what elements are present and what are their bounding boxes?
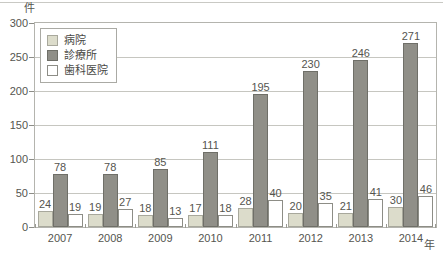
legend-label-clinic: 診療所 <box>64 50 97 61</box>
y-axis-unit-label: 件 <box>24 3 35 14</box>
x-tick-mark <box>185 224 186 228</box>
legend-swatch-clinic <box>47 50 58 61</box>
bar[interactable] <box>403 43 418 227</box>
bar[interactable] <box>53 174 68 227</box>
bar-group: 2023035 <box>288 23 333 227</box>
bar-value-label: 230 <box>296 59 325 70</box>
x-tick-label: 2011 <box>236 232 286 244</box>
top-rule <box>0 2 443 3</box>
x-tick-mark <box>336 224 337 228</box>
x-tick-label: 2010 <box>185 232 235 244</box>
bar[interactable] <box>338 213 353 227</box>
legend-swatch-dental <box>47 65 58 76</box>
bar[interactable] <box>303 71 318 227</box>
x-tick-mark <box>135 224 136 228</box>
legend-item-clinic[interactable]: 診療所 <box>47 48 108 63</box>
y-tick-mark <box>29 57 34 58</box>
bar-value-label: 78 <box>96 162 125 173</box>
x-axis-labels: 20072008200920102011201220132014 <box>35 232 436 246</box>
x-tick-mark <box>435 224 436 228</box>
y-tick-mark <box>29 125 34 126</box>
bar-value-label: 85 <box>146 157 175 168</box>
x-tick-label: 2009 <box>135 232 185 244</box>
x-tick-label: 2007 <box>35 232 85 244</box>
y-tick-mark <box>29 91 34 92</box>
bar[interactable] <box>168 218 183 227</box>
y-tick-label: 200 <box>0 86 28 97</box>
x-tick-mark <box>35 224 36 228</box>
legend: 病院 診療所 歯科医院 <box>40 28 117 83</box>
legend-item-hospital[interactable]: 病院 <box>47 33 108 48</box>
bar[interactable] <box>188 215 203 227</box>
bar[interactable] <box>38 211 53 227</box>
x-tick-mark <box>286 224 287 228</box>
bar-value-label: 111 <box>196 140 225 151</box>
bar[interactable] <box>203 152 218 227</box>
bar-group: 1711118 <box>188 23 233 227</box>
bar-group: 2819540 <box>238 23 283 227</box>
x-tick-mark <box>386 224 387 228</box>
y-tick-label: 150 <box>0 120 28 131</box>
bar[interactable] <box>88 214 103 227</box>
x-tick-mark <box>236 224 237 228</box>
y-tick-label: 100 <box>0 154 28 165</box>
bar-value-label: 246 <box>346 48 375 59</box>
bar[interactable] <box>238 208 253 227</box>
y-tick-mark <box>29 159 34 160</box>
x-tick-label: 2014 <box>386 232 436 244</box>
legend-item-dental[interactable]: 歯科医院 <box>47 63 108 78</box>
y-tick-mark <box>29 193 34 194</box>
x-tick-mark <box>85 224 86 228</box>
bar[interactable] <box>68 214 83 227</box>
bar[interactable] <box>288 213 303 227</box>
y-tick-mark <box>29 23 34 24</box>
bar-value-label: 40 <box>261 188 290 199</box>
bar[interactable] <box>153 169 168 227</box>
bar[interactable] <box>218 215 233 227</box>
y-tick-label: 300 <box>0 18 28 29</box>
y-tick-label: 0 <box>0 222 28 233</box>
x-tick-label: 2012 <box>286 232 336 244</box>
bar-chart: 件 年 050100150200250300 24781919782718851… <box>0 0 443 256</box>
x-tick-label: 2013 <box>336 232 386 244</box>
y-tick-mark <box>29 227 34 228</box>
bar-group: 3027146 <box>388 23 433 227</box>
x-tick-label: 2008 <box>85 232 135 244</box>
bar-value-label: 195 <box>246 82 275 93</box>
bar[interactable] <box>418 196 433 227</box>
bar[interactable] <box>388 207 403 227</box>
legend-swatch-hospital <box>47 35 58 46</box>
legend-label-hospital: 病院 <box>64 35 86 46</box>
y-tick-label: 50 <box>0 188 28 199</box>
bar[interactable] <box>138 215 153 227</box>
bar-value-label: 271 <box>396 31 425 42</box>
bar-group: 2124641 <box>338 23 383 227</box>
bar[interactable] <box>353 60 368 227</box>
bar-group: 188513 <box>138 23 183 227</box>
bar[interactable] <box>253 94 268 227</box>
y-tick-label: 250 <box>0 52 28 63</box>
legend-label-dental: 歯科医院 <box>64 65 108 76</box>
bar-value-label: 78 <box>46 162 75 173</box>
bar-value-label: 46 <box>411 184 440 195</box>
